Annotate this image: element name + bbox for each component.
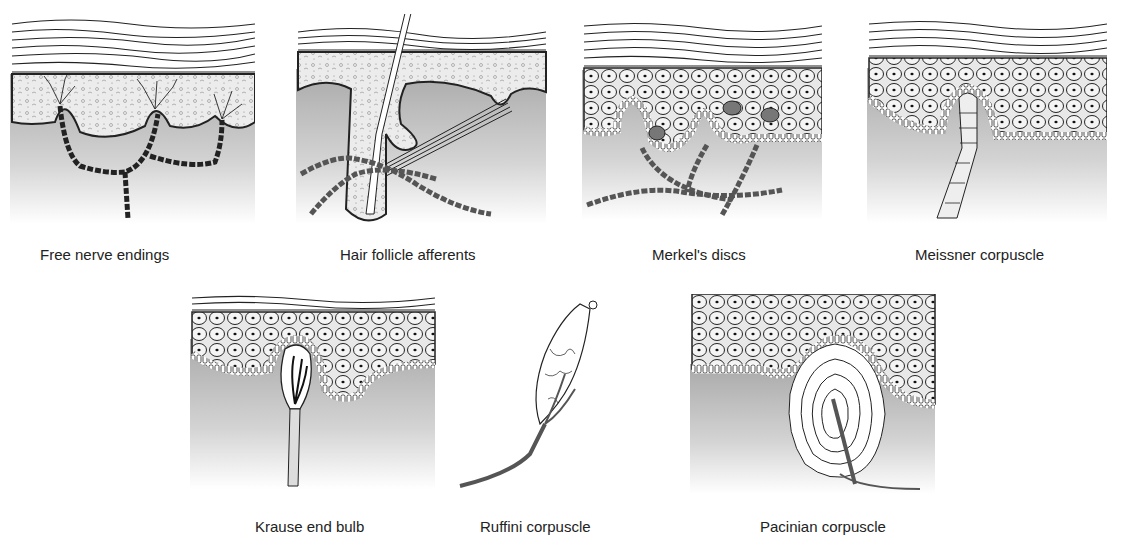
panel-krause-end-bulb	[190, 294, 440, 489]
label-krause-end-bulb: Krause end bulb	[255, 518, 364, 535]
label-free-nerve-endings: Free nerve endings	[40, 246, 169, 263]
panel-ruffini-corpuscle	[450, 294, 650, 494]
panel-hair-follicle-afferents	[296, 14, 551, 224]
panel-meissner-corpuscle	[867, 18, 1107, 223]
label-hair-follicle-afferents: Hair follicle afferents	[340, 246, 476, 263]
stratum-corneum-lines	[12, 20, 255, 72]
merkels-discs-illustration	[582, 20, 822, 220]
hair-follicle-illustration	[296, 14, 551, 224]
panel-merkels-discs	[582, 20, 822, 220]
label-merkels-discs: Merkel's discs	[652, 246, 746, 263]
label-pacinian-corpuscle: Pacinian corpuscle	[760, 518, 886, 535]
ruffini-corpuscle-illustration	[450, 294, 650, 494]
panel-pacinian-corpuscle	[690, 294, 940, 494]
label-ruffini-corpuscle: Ruffini corpuscle	[480, 518, 591, 535]
pacinian-corpuscle-illustration	[690, 294, 940, 494]
panel-free-nerve-endings	[10, 14, 255, 224]
label-meissner-corpuscle: Meissner corpuscle	[915, 246, 1044, 263]
free-nerve-endings-illustration	[10, 14, 255, 224]
meissner-corpuscle-illustration	[867, 18, 1107, 223]
krause-end-bulb-illustration	[190, 294, 440, 489]
